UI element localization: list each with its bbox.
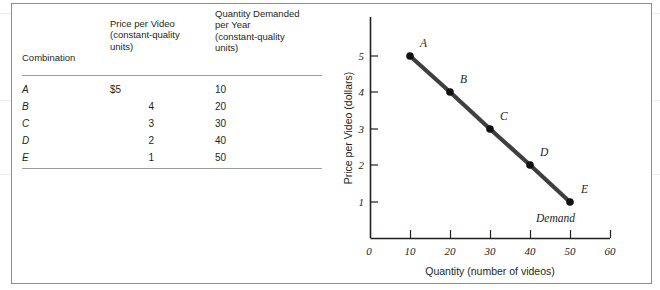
- x-tick-label: 20: [445, 245, 457, 257]
- data-point-label-a: A: [419, 37, 428, 49]
- y-tick-label: 1: [359, 196, 365, 208]
- data-point-label-d: D: [539, 146, 549, 158]
- x-tick-label: 0: [366, 245, 372, 257]
- column-header-quantity-line1: Quantity Demanded: [215, 8, 325, 19]
- data-point-c: [486, 125, 494, 133]
- cell-price: 1: [110, 149, 154, 166]
- table-row: E 1 50: [22, 149, 322, 166]
- table-header-row: Combination Price per Video (constant-qu…: [22, 8, 322, 68]
- table-row: A $5 10: [22, 81, 322, 98]
- cell-quantity: 40: [215, 132, 226, 149]
- column-header-quantity-line2: per Year: [215, 19, 325, 30]
- demand-schedule-table: Combination Price per Video (constant-qu…: [22, 8, 322, 173]
- x-tick-label: 30: [484, 245, 497, 257]
- cell-price: 3: [110, 115, 154, 132]
- column-header-price-line3: units): [110, 41, 205, 52]
- cell-combination: B: [22, 98, 29, 115]
- data-point-a: [406, 52, 414, 60]
- data-point-label-e: E: [580, 183, 588, 195]
- cell-price: $5: [110, 81, 154, 98]
- y-tick-label: 4: [359, 86, 365, 98]
- demand-curve-label: Demand: [535, 212, 575, 224]
- table-row: C 3 30: [22, 115, 322, 132]
- x-axis-ticks: [411, 230, 611, 238]
- cell-combination: A: [22, 81, 29, 98]
- x-tick-label: 40: [525, 245, 537, 257]
- y-tick-label: 5: [359, 50, 365, 62]
- y-tick-label: 3: [358, 123, 365, 135]
- cell-combination: E: [22, 149, 29, 166]
- x-tick-label: 50: [565, 245, 577, 257]
- x-tick-label: 60: [605, 245, 617, 257]
- data-point-e: [566, 198, 574, 206]
- cell-quantity: 20: [215, 98, 226, 115]
- cell-quantity: 10: [215, 81, 226, 98]
- column-header-quantity: Quantity Demanded per Year (constant-qua…: [215, 8, 325, 54]
- demand-curve-chart: 5 4 3 2 1 0 10 20 30 40 50 60 A B C D E …: [340, 0, 640, 285]
- column-header-quantity-line4: units): [215, 42, 325, 53]
- x-axis-title: Quantity (number of videos): [425, 265, 555, 277]
- y-axis-title: Price per Video (dollars): [342, 72, 354, 184]
- column-header-price-line1: Price per Video: [110, 18, 205, 29]
- table-row: B 4 20: [22, 98, 322, 115]
- cell-quantity: 50: [215, 149, 226, 166]
- cell-combination: C: [22, 115, 29, 132]
- x-tick-label: 10: [405, 245, 417, 257]
- cell-quantity: 30: [215, 115, 226, 132]
- data-point-b: [446, 88, 454, 96]
- column-header-quantity-line3: (constant-quality: [215, 31, 325, 42]
- cell-combination: D: [22, 132, 29, 149]
- data-point-label-c: C: [500, 110, 508, 122]
- data-point-d: [526, 161, 534, 169]
- column-header-combination: Combination: [22, 52, 75, 63]
- table-header-rule: [22, 75, 322, 76]
- table-footer-rule: [22, 168, 322, 169]
- y-axis-ticks: [371, 56, 379, 202]
- column-header-price: Price per Video (constant-quality units): [110, 18, 205, 52]
- chart-canvas: 5 4 3 2 1 0 10 20 30 40 50 60 A B C D E …: [340, 0, 640, 285]
- data-point-label-b: B: [460, 73, 467, 85]
- table-row: D 2 40: [22, 132, 322, 149]
- cell-price: 2: [110, 132, 154, 149]
- column-header-price-line2: (constant-quality: [110, 29, 205, 40]
- cell-price: 4: [110, 98, 154, 115]
- y-tick-label: 2: [359, 159, 365, 171]
